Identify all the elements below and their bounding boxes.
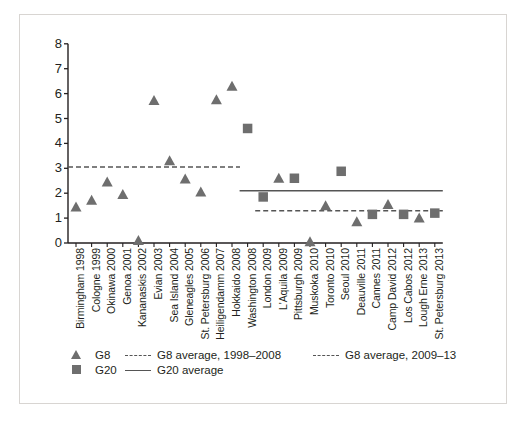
legend-label-g20-avg: G20 average <box>157 364 224 376</box>
chart-legend: G8 G8 average, 1998–2008 G8 average, 200… <box>62 347 456 377</box>
legend-row-2: G20 G20 average <box>62 362 456 377</box>
chart-figure: 876543210 Birmingham 1998Cologne 1999Oki… <box>0 0 527 422</box>
legend-item-g20-avg: G20 average <box>124 364 312 376</box>
dashed-line-icon-2 <box>312 349 340 361</box>
legend-label-g20: G20 <box>95 364 117 376</box>
legend-item-g8: G8 <box>62 349 124 361</box>
solid-line-icon <box>124 364 152 376</box>
legend-row-1: G8 G8 average, 1998–2008 G8 average, 200… <box>62 347 456 362</box>
legend-label-g8: G8 <box>95 349 110 361</box>
dashed-line-icon <box>124 349 152 361</box>
legend-label-g8-avg-early: G8 average, 1998–2008 <box>157 349 281 361</box>
square-marker-icon <box>62 364 90 376</box>
legend-item-g8-avg-late: G8 average, 2009–13 <box>312 349 456 361</box>
legend-item-g20: G20 <box>62 364 124 376</box>
x-axis-tick-label: St. Petersburg 2013 <box>439 248 450 340</box>
legend-item-g8-avg-early: G8 average, 1998–2008 <box>124 349 312 361</box>
legend-label-g8-avg-late: G8 average, 2009–13 <box>345 349 456 361</box>
triangle-marker-icon <box>62 349 90 361</box>
